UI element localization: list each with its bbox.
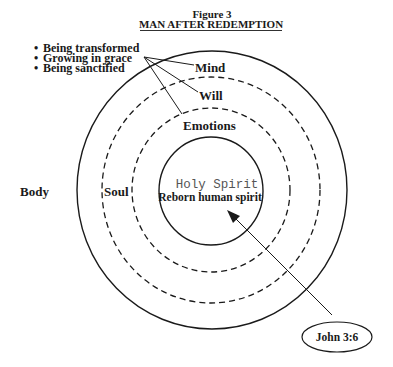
- pointer-line-will: [144, 57, 198, 92]
- label-soul: Soul: [104, 184, 129, 199]
- label-reborn-spirit: Reborn human spirit: [158, 191, 262, 204]
- bullet-item: Being sanctified: [43, 61, 125, 75]
- label-body: Body: [20, 184, 49, 199]
- bullet-list: • Being transformed • Growing in grace •…: [34, 41, 140, 75]
- reference-label: John 3:6: [316, 331, 359, 343]
- figure-title: MAN AFTER REDEMPTION: [139, 18, 283, 30]
- redemption-diagram: Figure 3 MAN AFTER REDEMPTION • Being tr…: [0, 0, 393, 367]
- label-will: Will: [199, 88, 223, 103]
- bullet-icon: •: [34, 61, 38, 75]
- label-holy-spirit: Holy Spirit: [176, 178, 259, 192]
- label-emotions: Emotions: [183, 118, 236, 133]
- pointer-line-emotions: [144, 57, 182, 114]
- label-mind: Mind: [195, 60, 226, 75]
- reference-arrow-line: [232, 215, 332, 315]
